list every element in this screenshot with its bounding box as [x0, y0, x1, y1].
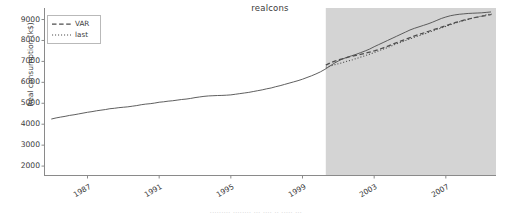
y-tick-label: 7000: [0, 57, 40, 65]
legend-label: last: [75, 31, 88, 38]
legend-line-sample-dotted: [52, 30, 71, 40]
y-tick-label: 3000: [0, 141, 40, 149]
legend-item-var[interactable]: VAR: [48, 18, 100, 29]
y-axis-tick-labels: 20003000400050006000700080009000: [0, 0, 40, 213]
chart-title: realcons: [14, 3, 512, 13]
y-tick-label: 5000: [0, 99, 40, 107]
legend-line-sample-dashed: [52, 19, 71, 29]
forecast-shaded-region: [326, 8, 496, 176]
y-tick-label: 9000: [0, 16, 40, 24]
legend-item-last[interactable]: last: [48, 29, 100, 40]
y-tick-label: 6000: [0, 78, 40, 86]
figure-canvas: realcons Real consumption (k$) 200030004…: [0, 0, 512, 213]
legend-label: VAR: [75, 20, 89, 27]
cropped-caption-fragment: ......... ........ ... .... .. ..... ...: [0, 207, 512, 213]
y-tick-label: 4000: [0, 120, 40, 128]
chart-legend[interactable]: VARlast: [47, 15, 101, 44]
y-tick-label: 8000: [0, 36, 40, 44]
y-tick-label: 2000: [0, 162, 40, 170]
